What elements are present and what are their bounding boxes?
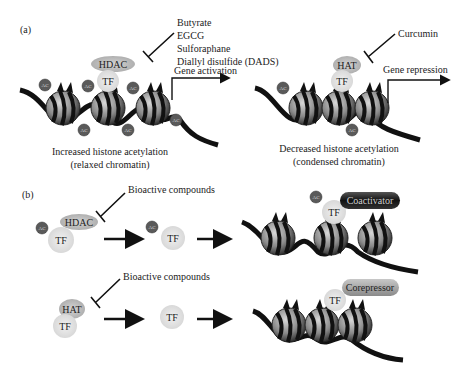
hdac-label: HDAC <box>65 217 94 228</box>
tf-label: TF <box>102 76 114 87</box>
inhibition-icon <box>91 279 120 308</box>
nucleosome-icon <box>272 299 306 342</box>
coactivator-label: Coactivator <box>347 195 394 206</box>
caption-increased: Increased histone acetylation <box>52 146 168 157</box>
caption-condensed: (condensed chromatin) <box>293 156 385 168</box>
tf-label: TF <box>59 321 71 332</box>
gene-repression-label: Gene repression <box>383 64 448 75</box>
nucleosome-icon <box>261 212 295 255</box>
panel-a-left: Butyrate EGCG Sulforaphane Diallyl disul… <box>20 17 279 171</box>
inhibition-icon <box>143 33 174 62</box>
corepressor-label: Corepressor <box>346 282 395 293</box>
acetyl-tag-icon <box>39 79 51 91</box>
acetyl-tag-icon <box>36 222 48 234</box>
caption-decreased: Decreased histone acetylation <box>279 143 398 154</box>
hat-label: HAT <box>62 304 81 315</box>
gene-activation-arrow-icon <box>172 78 228 100</box>
nucleosome-icon <box>358 212 392 255</box>
inhibitor-butyrate: Butyrate <box>177 17 212 28</box>
inhibition-icon <box>364 34 395 63</box>
tf-label: TF <box>167 233 179 244</box>
acetyl-tag-icon <box>78 124 90 136</box>
acetyl-tag-icon <box>127 82 139 94</box>
tf-label: TF <box>329 295 341 306</box>
panel-b-bottom-row: Bioactive compounds HAT TF TF TF Corepre… <box>53 271 403 360</box>
hat-label: HAT <box>337 60 356 71</box>
hdac-label: HDAC <box>99 59 128 70</box>
inhibitor-sulforaphane: Sulforaphane <box>177 43 231 54</box>
acetyl-tag-icon <box>310 191 322 203</box>
panel-b-label: (b) <box>22 189 34 201</box>
acetyl-tag-icon <box>146 221 158 233</box>
panel-b-top-row: Bioactive compounds HDAC TF TF TF Coacti… <box>36 184 418 272</box>
nucleosome-icon <box>46 82 80 125</box>
inhibitor-egcg: EGCG <box>177 30 204 41</box>
nucleosome-icon <box>136 82 170 125</box>
inhibitor-curcumin: Curcumin <box>398 28 438 39</box>
epigenetic-diagram: AC (a) Butyrate EGCG Sulforaphane Dially… <box>0 0 469 378</box>
nucleosome-icon <box>289 82 323 125</box>
tf-label: TF <box>166 312 178 323</box>
acetyl-tag-icon <box>346 124 358 136</box>
gene-repression-arrow-icon <box>388 80 448 103</box>
tf-label: TF <box>55 235 67 246</box>
acetyl-tag-icon <box>277 82 289 94</box>
tf-label: TF <box>328 207 340 218</box>
gene-activation-label: Gene activation <box>174 65 237 76</box>
bioactive-compounds-label: Bioactive compounds <box>128 184 215 195</box>
bioactive-compounds-label: Bioactive compounds <box>123 271 210 282</box>
panel-a-right: Curcumin HAT TF Gene repression Decrease… <box>255 28 448 168</box>
acetyl-tag-icon <box>82 80 94 92</box>
caption-relaxed: (relaxed chromatin) <box>70 159 149 171</box>
acetyl-tag-icon <box>122 124 134 136</box>
tf-label: TF <box>336 76 348 87</box>
acetyl-tag-icon <box>170 114 182 126</box>
nucleosome-icon <box>355 82 389 125</box>
inhibition-icon <box>96 193 125 222</box>
panel-a-label: (a) <box>20 24 31 36</box>
